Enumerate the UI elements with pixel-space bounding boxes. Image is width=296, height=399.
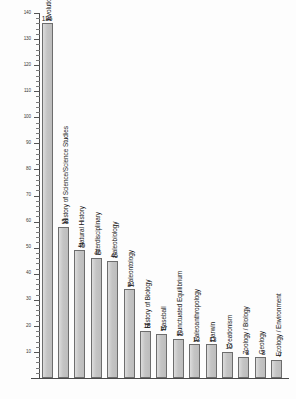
bar (189, 344, 200, 378)
y-axis-major-tick (34, 222, 40, 223)
y-axis-tick-label: 130 (0, 37, 31, 42)
bar-category-label: Paleontology (128, 250, 135, 286)
bar-chart: 140130120110100908070605040302010 136Evo… (0, 0, 296, 399)
y-axis-minor-tick (36, 185, 40, 186)
y-axis-minor-tick (36, 175, 40, 176)
bar (124, 289, 135, 378)
bar-category-label: Darwin (210, 321, 217, 341)
y-axis-minor-tick (36, 242, 40, 243)
y-axis-major-tick (34, 169, 40, 170)
bar (156, 334, 167, 378)
y-axis-minor-tick (36, 190, 40, 191)
y-axis-minor-tick (36, 284, 40, 285)
y-axis-minor-tick (36, 373, 40, 374)
bar-category-label: Ecology / Environment (275, 294, 282, 357)
bar-category-label: Evolutionary Theory (46, 0, 53, 20)
y-axis-tick-label: 120 (0, 63, 31, 68)
y-axis-tick-label: 60 (0, 219, 31, 224)
y-axis-tick-label: 140 (0, 11, 31, 16)
bar (173, 339, 184, 378)
y-axis-minor-tick (36, 295, 40, 296)
y-axis-tick-label: 10 (0, 350, 31, 355)
x-axis-line (31, 378, 289, 379)
y-axis-tick-label: 20 (0, 324, 31, 329)
y-axis-minor-tick (36, 206, 40, 207)
y-axis-minor-tick (36, 164, 40, 165)
y-axis-major-tick (34, 13, 40, 14)
y-axis-minor-tick (36, 237, 40, 238)
y-axis-minor-tick (36, 112, 40, 113)
y-axis-minor-tick (36, 44, 40, 45)
y-axis-minor-tick (36, 70, 40, 71)
y-axis-minor-tick (36, 362, 40, 363)
y-axis-major-tick (34, 352, 40, 353)
bar (140, 331, 151, 378)
bar-category-label: Creationism (226, 315, 233, 349)
y-axis-minor-tick (36, 331, 40, 332)
bar-category-label: Zoology / Biology (242, 306, 249, 354)
y-axis-tick-label: 50 (0, 245, 31, 250)
bar (255, 357, 266, 378)
y-axis-major-tick (34, 196, 40, 197)
y-axis-minor-tick (36, 342, 40, 343)
bar (238, 357, 249, 378)
bar (58, 227, 69, 378)
y-axis-minor-tick (36, 216, 40, 217)
bar (74, 250, 85, 378)
y-axis-minor-tick (36, 310, 40, 311)
y-axis-minor-tick (36, 357, 40, 358)
y-axis-minor-tick (36, 347, 40, 348)
y-axis-minor-tick (36, 138, 40, 139)
y-axis-minor-tick (36, 180, 40, 181)
y-axis-tick-label: 40 (0, 271, 31, 276)
bar (271, 360, 282, 378)
bar-category-label: Geology (259, 331, 266, 355)
y-axis-major-tick (34, 143, 40, 144)
y-axis-minor-tick (36, 76, 40, 77)
y-axis-tick-label: 30 (0, 297, 31, 302)
y-axis-tick-label: 80 (0, 167, 31, 172)
y-axis-minor-tick (36, 96, 40, 97)
y-axis-minor-tick (36, 201, 40, 202)
y-axis-major-tick (34, 117, 40, 118)
y-axis-major-tick (34, 91, 40, 92)
y-axis-minor-tick (36, 102, 40, 103)
plot-area: 140130120110100908070605040302010 136Evo… (0, 0, 296, 399)
y-axis-major-tick (34, 65, 40, 66)
y-axis-minor-tick (36, 107, 40, 108)
y-axis-minor-tick (36, 258, 40, 259)
y-axis-minor-tick (36, 50, 40, 51)
y-axis-minor-tick (36, 154, 40, 155)
y-axis-minor-tick (36, 368, 40, 369)
y-axis-minor-tick (36, 81, 40, 82)
y-axis-minor-tick (36, 86, 40, 87)
y-axis-minor-tick (36, 336, 40, 337)
bar-category-label: History of Biology (144, 279, 151, 328)
bar (107, 261, 118, 378)
bar (42, 23, 53, 378)
y-axis-tick-label: 90 (0, 141, 31, 146)
y-axis-minor-tick (36, 29, 40, 30)
y-axis-minor-tick (36, 227, 40, 228)
y-axis-major-tick (34, 326, 40, 327)
y-axis-minor-tick (36, 34, 40, 35)
bar-category-label: Baseball (160, 307, 167, 331)
y-axis-minor-tick (36, 279, 40, 280)
y-axis-tick-label: 100 (0, 115, 31, 120)
y-axis-tick-label: 70 (0, 193, 31, 198)
y-axis-major-tick (34, 248, 40, 249)
y-axis-minor-tick (36, 123, 40, 124)
bar-category-label: Natural History (78, 206, 85, 247)
bar-category-label: Interdisciplinary (95, 212, 102, 255)
y-axis-minor-tick (36, 149, 40, 150)
y-axis-minor-tick (36, 133, 40, 134)
y-axis-minor-tick (36, 60, 40, 61)
y-axis-minor-tick (36, 269, 40, 270)
y-axis-major-tick (34, 274, 40, 275)
y-axis-minor-tick (36, 159, 40, 160)
y-axis-minor-tick (36, 128, 40, 129)
y-axis-minor-tick (36, 211, 40, 212)
bar-category-label: History of Science/Science Studies (62, 126, 69, 223)
y-axis-major-tick (34, 300, 40, 301)
y-axis-minor-tick (36, 289, 40, 290)
